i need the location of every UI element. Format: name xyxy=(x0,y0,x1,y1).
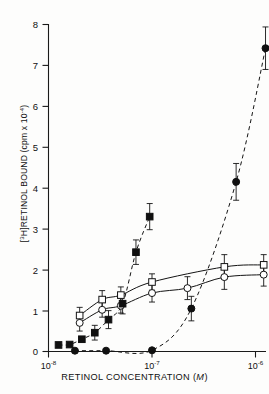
data-point-open-circles-4 xyxy=(184,285,191,292)
data-point-filled-squares-3 xyxy=(91,329,98,336)
data-point-open-circles-0 xyxy=(76,319,83,326)
data-point-open-squares-3 xyxy=(149,279,156,286)
retinol-binding-figure: 8 7 6 5 4 3 2 1 0 10-8 10-7 10-6 xyxy=(0,0,269,394)
y-tick-group: 8 7 6 5 4 3 2 1 0 xyxy=(33,19,49,357)
y-tick-label-6: 6 xyxy=(33,101,38,112)
x-tick-exponent-0: -8 xyxy=(51,359,57,366)
data-point-filled-squares-2 xyxy=(79,336,86,343)
data-point-open-circles-1 xyxy=(99,306,106,313)
data-point-filled-squares-0 xyxy=(55,342,62,349)
data-point-filled-squares-4 xyxy=(105,316,112,323)
y-axis-label: [3H]RETINOL BOUND (cpm x 10-4) xyxy=(19,93,30,253)
series-curves xyxy=(59,48,266,353)
data-point-filled-squares-5 xyxy=(119,300,126,307)
y-axis-label-main: H]RETINOL BOUND (cpm x 10 xyxy=(19,113,29,236)
data-point-filled-squares-6 xyxy=(133,249,140,256)
x-axis-label-close: ) xyxy=(204,372,207,382)
x-tick-exponent-1: -7 xyxy=(154,359,160,366)
data-point-open-squares-4 xyxy=(221,264,228,271)
curve-open-circles xyxy=(80,275,264,323)
x-axis-label-text: RETINOL CONCENTRATION ( xyxy=(61,372,196,382)
data-point-open-squares-2 xyxy=(118,292,125,299)
data-point-open-squares-0 xyxy=(76,312,83,319)
data-point-open-circles-3 xyxy=(149,290,156,297)
chart-canvas: 8 7 6 5 4 3 2 1 0 10-8 10-7 10-6 xyxy=(0,0,269,394)
y-axis-label-isotope: 3 xyxy=(19,236,25,240)
data-point-open-squares-1 xyxy=(99,296,106,303)
data-point-filled-circles-2 xyxy=(149,347,156,354)
x-tick-mantissa-0: 10 xyxy=(41,361,51,371)
curve-filled-squares xyxy=(59,217,150,345)
data-point-filled-circles-1 xyxy=(103,347,110,354)
data-point-filled-squares-7 xyxy=(146,213,153,220)
y-tick-label-2: 2 xyxy=(33,265,38,276)
data-point-open-squares-5 xyxy=(260,262,267,269)
data-point-filled-circles-3 xyxy=(188,305,195,312)
x-tick-label-1e-6: 10-6 xyxy=(248,359,264,371)
y-axis-label-prefix: [ xyxy=(19,240,29,243)
y-axis-label-suffix: ) xyxy=(19,105,29,108)
y-tick-label-7: 7 xyxy=(33,60,38,71)
y-tick-label-1: 1 xyxy=(33,306,38,317)
axis-group xyxy=(49,24,267,352)
x-tick-mantissa-1: 10 xyxy=(144,361,154,371)
x-tick-label-1e-7: 10-7 xyxy=(144,359,160,371)
data-point-filled-circles-5 xyxy=(262,45,269,52)
series-markers xyxy=(55,45,269,354)
y-tick-label-0: 0 xyxy=(33,346,38,357)
data-point-open-circles-5 xyxy=(221,274,228,281)
data-point-filled-circles-4 xyxy=(233,178,240,185)
data-point-filled-squares-1 xyxy=(66,341,73,348)
x-axis-label: RETINOL CONCENTRATION (M) xyxy=(0,372,269,382)
y-tick-label-4: 4 xyxy=(33,183,38,194)
y-axis-label-exponent: -4 xyxy=(19,108,25,114)
y-tick-label-5: 5 xyxy=(33,142,38,153)
data-point-open-circles-6 xyxy=(260,271,267,278)
x-tick-label-1e-8: 10-8 xyxy=(41,359,57,371)
x-tick-exponent-2: -6 xyxy=(258,359,264,366)
data-point-filled-circles-0 xyxy=(71,347,78,354)
x-tick-mantissa-2: 10 xyxy=(248,361,258,371)
y-tick-label-3: 3 xyxy=(33,224,38,235)
y-tick-label-8: 8 xyxy=(33,19,38,30)
